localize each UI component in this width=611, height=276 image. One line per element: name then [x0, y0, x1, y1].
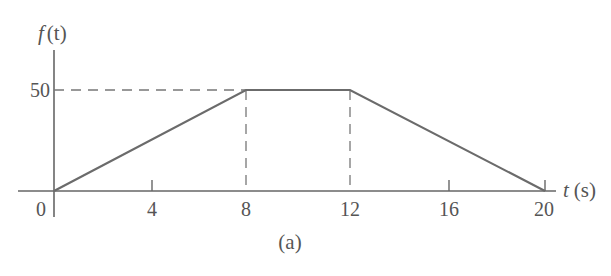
x-tick-label-20: 20 [534, 198, 554, 220]
x-tick-label-8: 8 [241, 198, 251, 220]
x-tick-label-12: 12 [340, 198, 360, 220]
figure-caption: (a) [278, 230, 301, 254]
x-axis-label: t(s) [563, 178, 596, 202]
chart-canvas: f(t) 50 0 4 8 12 16 20 t(s) (a) [0, 0, 611, 276]
x-tick-label-16: 16 [439, 198, 459, 220]
x-tick-label-0: 0 [36, 198, 46, 220]
data-line [54, 90, 545, 191]
y-tick-label-50: 50 [30, 79, 50, 101]
x-tick-label-4: 4 [147, 198, 157, 220]
y-axis-label: f(t) [38, 21, 67, 45]
